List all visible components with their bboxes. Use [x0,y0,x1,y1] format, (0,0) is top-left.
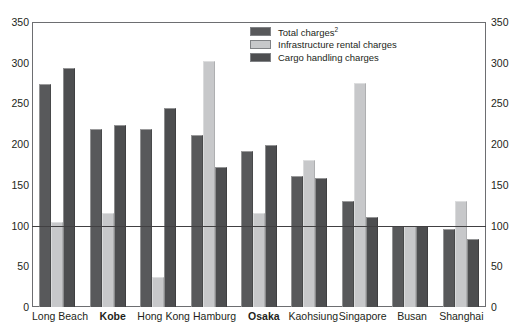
x-axis-label: Hamburg [190,310,239,322]
legend-swatch-infrastructure-rental-charges [250,40,271,49]
x-axis-label: Hong Kong [137,310,190,322]
x-axis-label: Shanghai [437,310,486,322]
y-axis-left-tick-label: 300 [1,58,29,68]
bar [114,125,126,307]
bar [90,129,102,307]
y-axis-right-tick-label: 50 [491,261,503,271]
bar [102,213,114,307]
bar [366,217,378,307]
legend-label-cargo-handling-charges: Cargo handling charges [278,53,379,63]
legend-item-infrastructure-rental-charges: Infrastructure rental charges [250,39,397,50]
x-axis-label: Busan [387,310,436,322]
bar [152,277,164,307]
y-axis-right-tick-label: 200 [491,139,509,149]
y-axis-left-tick-label: 150 [1,180,29,190]
bar-group [82,22,132,307]
y-axis-left-tick-label: 250 [1,98,29,108]
reference-line-100 [32,226,486,227]
x-axis-label: Kaohsiung [289,310,339,322]
bar [140,129,152,307]
y-axis-left-tick-label: 200 [1,139,29,149]
y-axis-left-tick-label: 50 [1,261,29,271]
bar [416,226,428,307]
bar [342,201,354,307]
y-axis-right-tick-label: 300 [491,58,509,68]
bar [63,68,75,307]
x-axis-label: Singapore [338,310,387,322]
bar-group [32,22,82,307]
y-axis-right-tick-label: 350 [491,17,509,27]
legend-item-cargo-handling-charges: Cargo handling charges [250,52,397,63]
x-axis-label: Long Beach [32,310,88,322]
bar [354,83,366,307]
bar [392,226,404,307]
bar [467,239,479,307]
bar-group [436,22,486,307]
bar [291,176,303,307]
bar-chart: 050100150200250300350 050100150200250300… [0,0,527,336]
y-axis-right-tick-label: 100 [491,221,509,231]
bar-group [183,22,233,307]
bar [164,108,176,307]
x-axis-label: Kobe [88,310,137,322]
bar [404,226,416,307]
y-axis-right-tick-label: 0 [491,302,497,312]
legend-label-total-charges: Total charges2 [278,25,338,38]
legend-swatch-cargo-handling-charges [250,53,271,62]
x-axis-label: Osaka [239,310,288,322]
legend-item-total-charges: Total charges2 [250,26,397,37]
chart-legend: Total charges2 Infrastructure rental cha… [250,26,397,65]
bar-group [133,22,183,307]
bar [303,160,315,307]
bar [191,135,203,307]
bar [443,229,455,307]
bar [39,84,51,307]
y-axis-left-tick-label: 0 [1,302,29,312]
y-axis-left-tick-label: 100 [1,221,29,231]
legend-label-infrastructure-rental-charges: Infrastructure rental charges [278,40,397,50]
bar [455,201,467,307]
legend-swatch-total-charges [250,27,271,36]
y-axis-right-tick-label: 150 [491,180,509,190]
y-axis-left-tick-label: 350 [1,17,29,27]
bar [203,61,215,307]
bar [51,222,63,308]
y-axis-right-tick-label: 250 [491,98,509,108]
x-axis-category-labels: Long BeachKobeHong KongHamburgOsakaKaohs… [32,310,486,322]
bar [215,167,227,307]
bar [241,151,253,307]
bar [315,178,327,307]
